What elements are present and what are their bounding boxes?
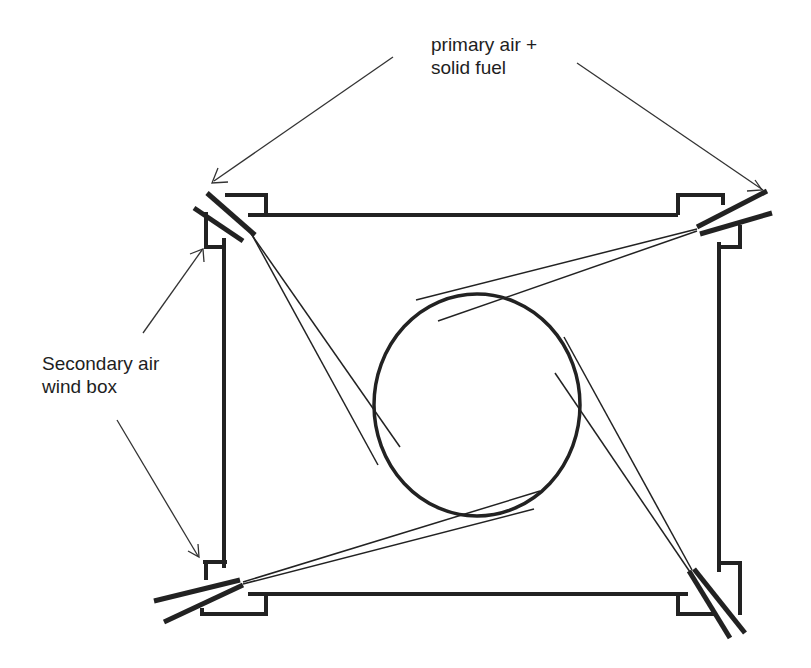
- jet-lines: [243, 228, 697, 584]
- secondary-air-label-line2: wind box: [42, 375, 159, 398]
- fireball-circle: [374, 294, 580, 516]
- arrow-primary-top-right: [577, 63, 763, 190]
- wind-box-top-right: [678, 195, 723, 215]
- arrow-secondary-top: [143, 250, 202, 333]
- secondary-air-label-line1: Secondary air: [42, 352, 159, 375]
- burners: [154, 191, 772, 638]
- arrow-secondary-bottom: [117, 420, 198, 556]
- wind-boxes: [202, 195, 740, 615]
- arrow-primary-top-left: [214, 57, 393, 181]
- secondary-air-label: Secondary air wind box: [42, 352, 159, 398]
- furnace-walls: [224, 215, 719, 594]
- furnace-diagram: [0, 0, 811, 668]
- primary-air-label-line2: solid fuel: [431, 56, 537, 79]
- annotation-arrows: [117, 57, 763, 557]
- primary-air-label-line1: primary air +: [431, 33, 537, 56]
- primary-air-label: primary air + solid fuel: [431, 33, 537, 79]
